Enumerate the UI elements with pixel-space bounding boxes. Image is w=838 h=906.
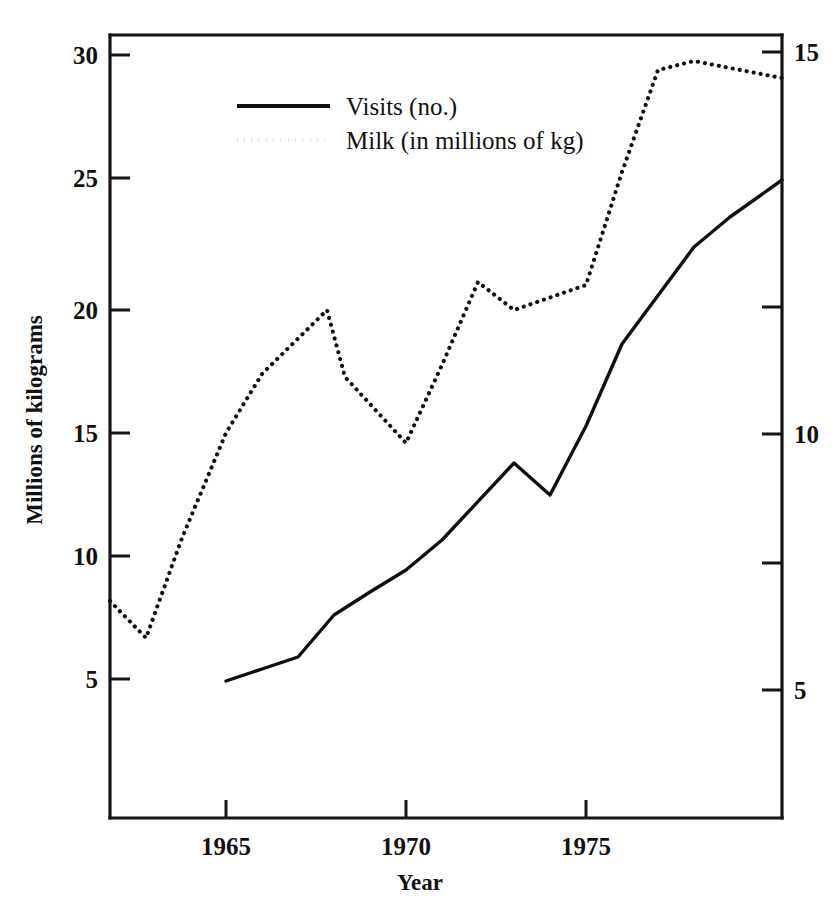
- x-axis-ticks: [226, 800, 586, 818]
- y-tick-label-right-10: 10: [794, 421, 819, 448]
- legend-label-visits: Visits (no.): [346, 93, 457, 121]
- y-axis-right-ticks: [762, 52, 782, 690]
- chart-legend: Visits (no.) Milk (in millions of kg): [237, 93, 584, 155]
- x-tick-label-1970: 1970: [381, 833, 431, 860]
- chart-figure: 30 25 20 15 10 5 15 10 5 1965: [0, 0, 838, 906]
- y-axis-left-ticks: [110, 55, 130, 679]
- x-axis-labels: 1965 1970 1975: [201, 833, 611, 860]
- y-axis-left-labels: 30 25 20 15 10 5: [73, 42, 98, 693]
- y-tick-label-left-20: 20: [73, 297, 98, 324]
- y-tick-label-left-15: 15: [73, 420, 98, 447]
- x-tick-label-1975: 1975: [561, 833, 611, 860]
- series-visits-line: [226, 180, 782, 681]
- x-tick-label-1965: 1965: [201, 833, 251, 860]
- y-tick-label-left-5: 5: [86, 666, 99, 693]
- y-tick-label-right-15: 15: [794, 39, 819, 66]
- y-tick-label-left-10: 10: [73, 543, 98, 570]
- y-axis-right-labels: 15 10 5: [794, 39, 819, 704]
- y-axis-title: Millions of kilograms: [22, 315, 47, 525]
- legend-label-milk: Milk (in millions of kg): [346, 127, 584, 155]
- x-axis-title: Year: [397, 870, 443, 895]
- y-tick-label-left-25: 25: [73, 165, 98, 192]
- line-chart: 30 25 20 15 10 5 15 10 5 1965: [0, 0, 838, 906]
- y-tick-label-left-30: 30: [73, 42, 98, 69]
- y-tick-label-right-5: 5: [794, 677, 807, 704]
